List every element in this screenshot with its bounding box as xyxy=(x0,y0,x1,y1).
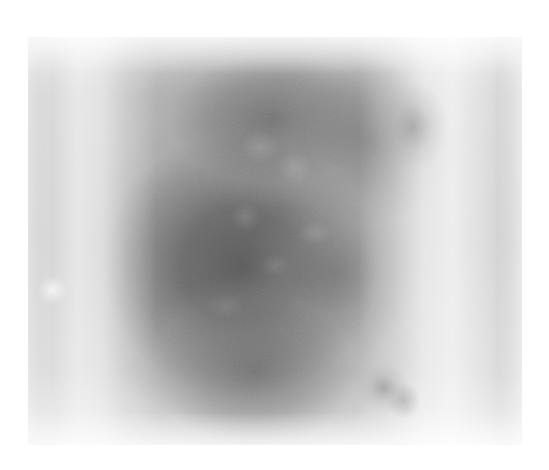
upper-right-dark-streak xyxy=(28,37,522,445)
plate-edge-brightening xyxy=(28,37,522,445)
grayscale-scan-image xyxy=(28,37,522,445)
internal-light-mottling xyxy=(28,37,522,445)
left-bright-halo xyxy=(28,37,522,445)
mid-right-dark-patch xyxy=(28,37,522,445)
right-bright-halo xyxy=(28,37,522,445)
film-grain-texture xyxy=(28,37,522,445)
lower-dark-lobe xyxy=(28,37,522,445)
mid-left-bright-fleck xyxy=(28,37,522,445)
lower-right-dark-smudge xyxy=(28,37,522,445)
upper-right-dark-extension xyxy=(28,37,522,445)
page-root xyxy=(0,0,549,470)
upper-dark-band xyxy=(28,37,522,445)
central-dark-mass xyxy=(28,37,522,445)
scan-base-field xyxy=(28,37,522,445)
